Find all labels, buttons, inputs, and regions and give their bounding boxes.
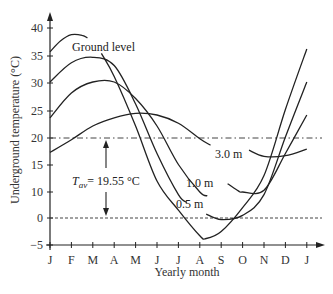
x-tick-label: D [281,253,290,267]
x-tick-label: M [87,253,98,267]
depth-0.5m-label: 0.5 m [176,197,204,211]
x-tick-label: J [304,253,309,267]
depth-1.0m-label: 1.0 m [186,176,214,190]
curve-ground-level [101,49,306,239]
x-tick-label: F [68,253,75,267]
x-axis-ticks: JFMAMJJASONDJ [48,242,310,267]
y-tick-label: 25 [31,104,43,118]
x-tick-label: N [260,253,269,267]
y-axis-title: Underground temperature (°C) [8,56,22,204]
y-axis-arrow-icon [47,12,53,21]
x-axis-arrow-icon [316,242,325,248]
x-tick-label: M [130,253,141,267]
y-tick-label: 40 [31,21,43,35]
x-axis-title: Yearly month [154,265,219,279]
y-tick-label: 20 [31,131,43,145]
y-tick-label: 10 [31,185,43,199]
x-tick-label: J [48,253,53,267]
curve-3.0-m [249,149,307,157]
y-tick-label: 0 [37,211,43,225]
arrow-up-icon [103,140,109,148]
depth-3.0m-label: 3.0 m [215,147,243,161]
y-tick-label: 30 [31,76,43,90]
curve-3.0-m [50,113,211,152]
x-tick-label: O [238,253,247,267]
arrow-down-icon [103,208,109,216]
tav-label: Tav= 19.55 °C [72,174,140,190]
y-tick-label: 35 [31,49,43,63]
chart-canvas: 403530252015100−5 JFMAMJJASONDJ Tav= 19.… [0,0,333,294]
ground-level-label: Ground level [72,40,136,54]
y-tick-label: 15 [31,158,43,172]
y-tick-label: −5 [30,238,43,252]
x-tick-label: A [110,253,119,267]
